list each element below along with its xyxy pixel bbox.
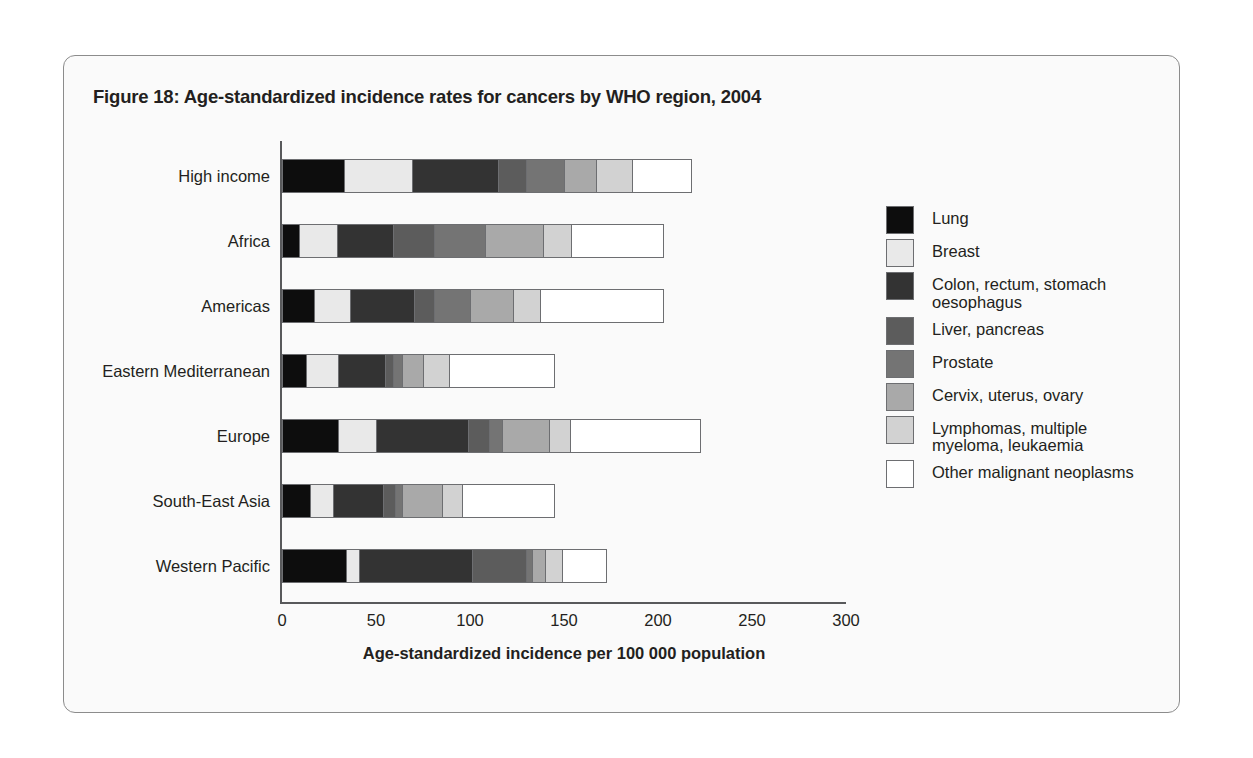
- bar-row: Eastern Mediterranean: [282, 354, 555, 388]
- x-tick-label: 100: [456, 611, 484, 630]
- bar-segment: [470, 289, 513, 323]
- bar-segment: [545, 549, 562, 583]
- bar-segment: [434, 289, 470, 323]
- bar-segment: [393, 224, 434, 258]
- category-label: Eastern Mediterranean: [102, 362, 270, 381]
- legend-item: Lymphomas, multiple myeloma, leukaemia: [886, 416, 1161, 456]
- bar-segment: [282, 419, 338, 453]
- bar-segment: [346, 549, 359, 583]
- x-tick-label: 50: [367, 611, 385, 630]
- bar-segment: [344, 159, 412, 193]
- figure-title: Figure 18: Age-standardized incidence ra…: [93, 86, 761, 108]
- bar-row: Europe: [282, 419, 701, 453]
- bar-segment: [282, 289, 314, 323]
- bar-segment: [402, 354, 423, 388]
- bar-row: Americas: [282, 289, 664, 323]
- bar-row: South-East Asia: [282, 484, 555, 518]
- legend-item: Colon, rectum, stomach oesophagus: [886, 272, 1161, 312]
- legend-label: Cervix, uterus, ovary: [932, 383, 1083, 405]
- x-tick-label: 300: [832, 611, 860, 630]
- bar-segment: [502, 419, 549, 453]
- legend-swatch: [886, 272, 914, 300]
- bar-segment: [442, 484, 463, 518]
- legend-swatch: [886, 350, 914, 378]
- bar-segment: [632, 159, 692, 193]
- x-axis-line: [282, 602, 846, 604]
- legend-label: Other malignant neoplasms: [932, 460, 1134, 482]
- bar-segment: [498, 159, 526, 193]
- category-label: Europe: [217, 427, 270, 446]
- bar-segment: [564, 159, 596, 193]
- legend-swatch: [886, 317, 914, 345]
- bar-segment: [393, 354, 402, 388]
- legend-swatch: [886, 383, 914, 411]
- legend-item: Other malignant neoplasms: [886, 460, 1161, 488]
- bar-segment: [282, 484, 310, 518]
- chart-legend: LungBreastColon, rectum, stomach oesopha…: [886, 206, 1161, 493]
- legend-item: Prostate: [886, 350, 1161, 378]
- bar-row: High income: [282, 159, 692, 193]
- x-tick-label: 200: [644, 611, 672, 630]
- legend-label: Prostate: [932, 350, 993, 372]
- bar-segment: [395, 484, 403, 518]
- bar-segment: [282, 224, 299, 258]
- bar-segment: [310, 484, 333, 518]
- legend-swatch: [886, 460, 914, 488]
- category-label: Western Pacific: [156, 557, 270, 576]
- bar-segment: [333, 484, 384, 518]
- bar-segment: [282, 549, 346, 583]
- x-tick-label: 150: [550, 611, 578, 630]
- bar-segment: [570, 419, 702, 453]
- bar-segment: [376, 419, 468, 453]
- legend-item: Liver, pancreas: [886, 317, 1161, 345]
- bar-segment: [462, 484, 554, 518]
- category-label: Americas: [201, 297, 270, 316]
- bar-segment: [513, 289, 539, 323]
- bar-segment: [549, 419, 570, 453]
- legend-label: Lung: [932, 206, 969, 228]
- bar-segment: [359, 549, 472, 583]
- bar-segment: [414, 289, 435, 323]
- x-axis-title: Age-standardized incidence per 100 000 p…: [282, 644, 846, 663]
- legend-swatch: [886, 206, 914, 234]
- bar-segment: [282, 159, 344, 193]
- bar-segment: [571, 224, 663, 258]
- bar-segment: [434, 224, 485, 258]
- bar-segment: [489, 419, 502, 453]
- legend-label: Lymphomas, multiple myeloma, leukaemia: [932, 416, 1087, 456]
- bar-segment: [472, 549, 527, 583]
- x-tick-label: 250: [738, 611, 766, 630]
- bar-segment: [314, 289, 350, 323]
- bar-segment: [383, 484, 394, 518]
- legend-swatch: [886, 239, 914, 267]
- bar-segment: [385, 354, 393, 388]
- bar-segment: [468, 419, 489, 453]
- bar-segment: [485, 224, 543, 258]
- legend-swatch: [886, 416, 914, 444]
- legend-item: Cervix, uterus, ovary: [886, 383, 1161, 411]
- bar-segment: [412, 159, 498, 193]
- bar-segment: [532, 549, 545, 583]
- bar-segment: [299, 224, 337, 258]
- bar-segment: [338, 354, 385, 388]
- bar-segment: [540, 289, 664, 323]
- bar-segment: [562, 549, 607, 583]
- figure-card: Figure 18: Age-standardized incidence ra…: [63, 55, 1180, 713]
- plot-area: High incomeAfricaAmericasEastern Mediter…: [282, 141, 846, 602]
- bar-segment: [449, 354, 554, 388]
- bar-segment: [306, 354, 338, 388]
- legend-label: Colon, rectum, stomach oesophagus: [932, 272, 1106, 312]
- bar-segment: [543, 224, 571, 258]
- bar-segment: [423, 354, 449, 388]
- category-label: South-East Asia: [153, 492, 270, 511]
- bar-segment: [402, 484, 441, 518]
- legend-item: Lung: [886, 206, 1161, 234]
- category-label: Africa: [228, 232, 270, 251]
- bar-segment: [282, 354, 306, 388]
- bar-segment: [596, 159, 632, 193]
- bar-segment: [350, 289, 414, 323]
- bar-row: Western Pacific: [282, 549, 607, 583]
- legend-label: Liver, pancreas: [932, 317, 1044, 339]
- bar-segment: [337, 224, 393, 258]
- x-tick-label: 0: [277, 611, 286, 630]
